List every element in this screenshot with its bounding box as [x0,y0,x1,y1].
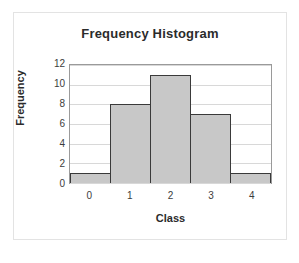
histogram-bar [190,114,231,183]
x-tick-label: 0 [69,190,110,201]
x-tick-label: 2 [150,190,191,201]
gridline [70,183,271,184]
x-axis-tick-labels: 01234 [69,190,272,201]
y-tick-label: 4 [40,139,65,149]
x-tick-label: 3 [191,190,232,201]
plot-area [69,64,272,184]
y-tick-label: 0 [40,179,65,189]
chart-title: Frequency Histogram [13,26,287,41]
y-axis-title: Frequency [14,52,26,144]
y-tick-label: 6 [40,119,65,129]
x-tick-label: 4 [231,190,272,201]
histogram-bar [70,173,111,183]
histogram-bar [150,75,191,183]
histogram-bar [110,104,151,183]
bars-container [70,65,271,183]
y-axis-tick-labels: 024681012 [40,64,65,184]
y-tick-label: 2 [40,159,65,169]
x-axis-title: Class [69,212,272,224]
y-tick-label: 8 [40,99,65,109]
frequency-histogram-figure: Frequency Histogram Frequency 024681012 … [0,0,299,263]
histogram-bar [230,173,271,183]
y-tick-label: 10 [40,79,65,89]
y-tick-label: 12 [40,59,65,69]
x-tick-label: 1 [110,190,151,201]
